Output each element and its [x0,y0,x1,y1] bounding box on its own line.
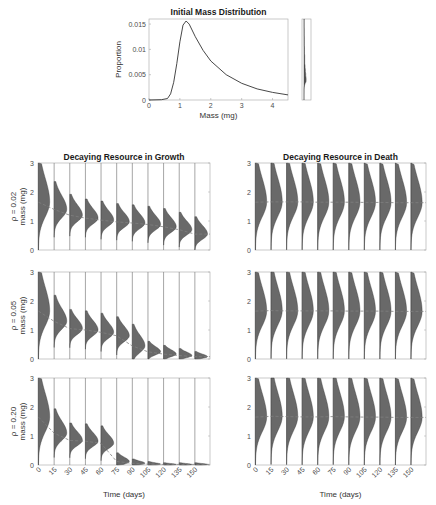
y-tick-label: 1 [247,433,251,440]
x-tick-label: 105 [138,466,151,479]
y-tick-label: 0.01 [132,46,146,53]
plot-frame [149,19,288,100]
violin [271,272,282,358]
x-tick-label: 75 [326,466,337,477]
y-tick-label: 0.015 [128,21,146,28]
violin [287,163,298,250]
row-rho-label: ρ = 0.20 [9,406,18,436]
x-tick-label: 135 [386,466,399,479]
violin [179,463,192,465]
row-rho-label: ρ = 0.02 [9,191,18,221]
violin [364,272,375,359]
y-tick-label: 2 [30,404,34,411]
x-axis-label: Time (days) [320,490,362,499]
y-tick-label: 0 [247,462,251,469]
panel-growth-row-1: 0123ρ = 0.05mass (mg) [9,269,210,363]
panel-title: Decaying Resource in Death [283,152,398,162]
violin [380,272,391,359]
x-tick-label: 0 [251,466,259,474]
violin [256,272,267,359]
violin [364,378,375,465]
x-axis-label: Mass (mg) [200,111,238,120]
y-tick-label: 0 [30,247,34,254]
violin [380,163,391,250]
violin [318,163,329,250]
y-tick-label: 3 [247,160,251,167]
panel-death-row-2: 01230153045607590105120135150Time (days) [247,375,426,500]
violin [39,378,50,465]
inset-violin [304,19,306,100]
figure-canvas: Initial Mass Distribution0123400.0050.01… [0,0,436,505]
violin [179,349,192,359]
violin [179,212,192,247]
x-tick-label: 135 [170,466,183,479]
y-tick-label: 1 [247,327,251,334]
x-tick-label: 150 [401,466,414,479]
x-tick-label: 30 [63,466,74,477]
violin [39,272,50,359]
violin [364,163,375,250]
x-tick-label: 0 [147,102,151,109]
violin [54,295,67,347]
y-tick-label: 2 [30,189,34,196]
x-tick-label: 4 [271,102,275,109]
chart-title: Initial Mass Distribution [171,7,267,17]
violin [411,163,422,250]
violin [411,378,422,465]
y-tick-label: 1 [247,218,251,225]
x-tick-label: 45 [79,466,90,477]
violin [117,317,130,355]
x-tick-label: 3 [240,102,244,109]
violin [54,409,67,458]
panel-death-row-0: Decaying Resource in Death0123 [247,152,426,254]
plot-frame [38,378,210,465]
x-tick-label: 60 [94,466,105,477]
violin [148,341,161,359]
panel-death-row-1: 0123 [247,269,426,363]
y-tick-label: 3 [30,160,34,167]
y-tick-label: 0 [30,462,34,469]
violin [302,378,313,465]
x-tick-label: 1 [178,102,182,109]
y-tick-label: 0 [247,356,251,363]
distribution-curve [149,21,288,100]
y-axis-label: Proportion [114,41,123,78]
x-tick-label: 0 [34,466,42,474]
violin [380,378,391,465]
violin [349,378,360,465]
x-tick-label: 120 [154,466,167,479]
x-tick-label: 105 [355,466,368,479]
violin [256,378,267,465]
violin [101,313,114,351]
y-axis-label: mass (mg) [18,187,27,225]
violin [349,163,360,250]
x-tick-label: 30 [280,466,291,477]
violin [132,324,145,359]
violin [164,345,177,359]
initial-mass-chart: Initial Mass Distribution0123400.0050.01… [114,7,288,120]
violin-panels-grid: Decaying Resource in Growth0123ρ = 0.02m… [9,152,426,499]
violin [333,272,344,359]
violin [302,272,313,359]
y-tick-label: 3 [247,375,251,382]
x-tick-label: 2 [209,102,213,109]
violin [195,351,208,359]
y-tick-label: 1 [30,327,34,334]
violin [395,163,406,250]
x-tick-label: 90 [342,466,353,477]
violin [132,205,145,242]
violin [287,272,298,359]
panel-growth-row-0: Decaying Resource in Growth0123ρ = 0.02m… [9,152,210,254]
x-tick-label: 120 [370,466,383,479]
violin [287,378,298,464]
y-tick-label: 3 [30,269,34,276]
x-tick-label: 45 [295,466,306,477]
y-tick-label: 0 [30,356,34,363]
violin [349,272,360,359]
panel-growth-row-2: 0123ρ = 0.20mass (mg)0153045607590105120… [9,375,210,500]
y-tick-label: 3 [247,269,251,276]
x-tick-label: 60 [311,466,322,477]
violin [54,182,67,238]
violin [256,163,267,250]
violin [117,204,130,241]
